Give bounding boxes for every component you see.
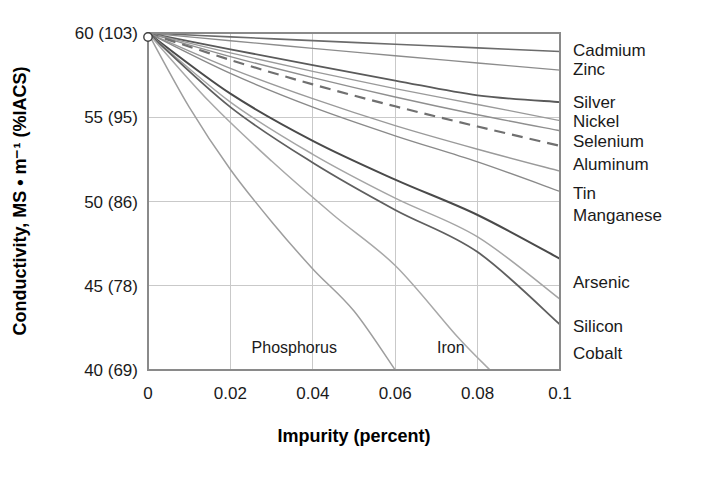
y-tick-label: 55 (95) [84,108,138,127]
series-label-arsenic: Arsenic [573,273,630,292]
y-tick-label: 50 (86) [84,193,138,212]
annotation-phosphorus: Phosphorus [252,339,337,356]
series-label-aluminum: Aluminum [573,155,649,174]
y-tick-label: 45 (78) [84,277,138,296]
x-tick-label: 0.06 [379,384,412,403]
series-label-cadmium: Cadmium [573,41,646,60]
x-tick-label: 0.02 [214,384,247,403]
conductivity-impurity-chart: 60 (103)55 (95)50 (86)45 (78)40 (69) 00.… [0,0,708,477]
series-label-cobalt: Cobalt [573,344,622,363]
series-label-nickel: Nickel [573,112,619,131]
series-label-selenium: Selenium [573,132,644,151]
chart-container: 60 (103)55 (95)50 (86)45 (78)40 (69) 00.… [0,0,708,477]
y-axis-title: Conductivity, MS • m⁻¹ (%IACS) [10,67,30,336]
x-tick-label: 0.08 [461,384,494,403]
x-tick-label: 0 [143,384,152,403]
y-tick-label: 60 (103) [75,24,138,43]
x-axis-title: Impurity (percent) [277,426,430,446]
series-label-silicon: Silicon [573,317,623,336]
x-tick-label: 0.1 [548,384,572,403]
y-tick-label: 40 (69) [84,361,138,380]
origin-marker [144,33,152,41]
series-label-tin: Tin [573,184,596,203]
series-label-zinc: Zinc [573,60,606,79]
series-label-silver: Silver [573,93,616,112]
x-tick-label: 0.04 [296,384,329,403]
annotation-iron: Iron [437,339,465,356]
series-label-manganese: Manganese [573,206,662,225]
